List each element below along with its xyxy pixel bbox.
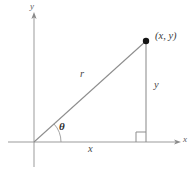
diagram-svg bbox=[0, 0, 196, 174]
plotted-point bbox=[143, 38, 149, 44]
hypotenuse-line bbox=[34, 41, 146, 142]
opposite-side-label: y bbox=[154, 80, 159, 91]
angle-theta-label: θ bbox=[59, 121, 65, 132]
right-angle-marker bbox=[136, 132, 146, 142]
hypotenuse-label: r bbox=[80, 69, 84, 80]
y-axis-label: y bbox=[30, 2, 34, 11]
figure-canvas: y x (x, y) r y x θ bbox=[0, 0, 196, 174]
point-coordinates-label: (x, y) bbox=[155, 31, 177, 42]
x-axis-label: x bbox=[183, 135, 187, 144]
adjacent-side-label: x bbox=[88, 144, 93, 155]
